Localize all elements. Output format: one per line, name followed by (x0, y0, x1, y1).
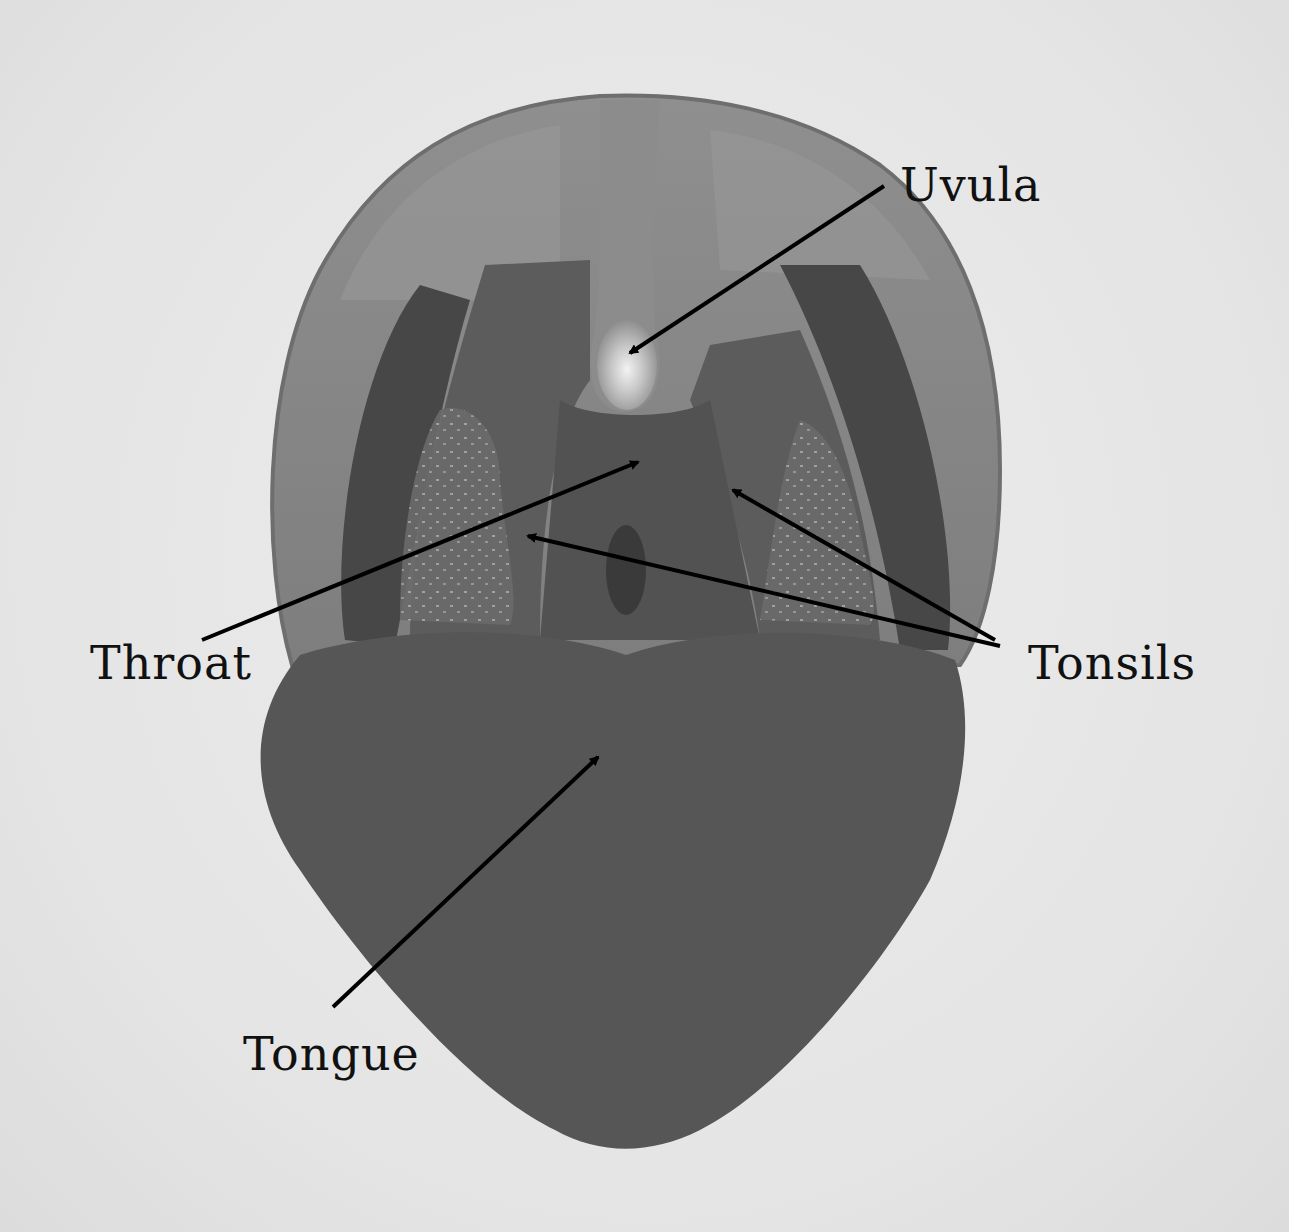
mouth-illustration (0, 0, 1289, 1232)
label-tonsils: Tonsils (1028, 640, 1196, 686)
uvula-tip (597, 320, 657, 410)
throat-opening (606, 525, 646, 615)
label-uvula: Uvula (900, 162, 1042, 208)
label-tongue: Tongue (243, 1031, 420, 1077)
mouth-anatomy-diagram: Uvula Throat Tonsils Tongue (0, 0, 1289, 1232)
label-throat: Throat (90, 640, 252, 686)
